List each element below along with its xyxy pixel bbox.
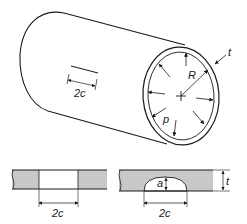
surface-crack-section: a t 2c bbox=[119, 170, 230, 219]
crack-depth-label: a bbox=[157, 177, 163, 189]
thickness-label: t bbox=[228, 46, 232, 58]
crack-line bbox=[71, 66, 98, 73]
pressure-vessel-crack-diagram: R p t 2c bbox=[0, 0, 247, 224]
crack-length-label: 2c bbox=[73, 87, 86, 99]
section-thickness-label: t bbox=[226, 175, 230, 187]
thickness-arrow bbox=[215, 55, 226, 64]
cylinder: R p t 2c bbox=[20, 12, 232, 147]
pressure-label: p bbox=[162, 113, 169, 125]
through-crack-section: 2c bbox=[12, 170, 107, 219]
surface-crack-length-label: 2c bbox=[158, 207, 171, 219]
through-crack-length-label: 2c bbox=[51, 207, 64, 219]
radius-label: R bbox=[188, 69, 196, 81]
left-plate-hatch bbox=[12, 170, 39, 189]
right-plate-hatch bbox=[78, 170, 107, 189]
